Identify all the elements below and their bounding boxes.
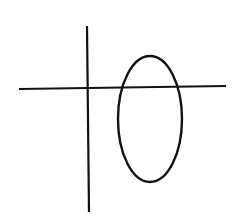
diagram-canvas	[0, 0, 244, 218]
vertical-axis-line	[87, 26, 89, 212]
ellipse-shape	[118, 56, 182, 182]
